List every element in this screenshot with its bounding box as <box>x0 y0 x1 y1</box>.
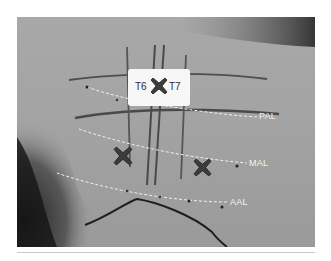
photo-graphics <box>17 17 315 247</box>
x-marker-icon <box>113 146 133 166</box>
line-label-pal: PAL <box>259 111 276 121</box>
line-label-mal: MAL <box>249 158 268 168</box>
line-label-aal: AAL <box>230 197 248 207</box>
vertebra-label-t6: T6 <box>135 81 147 92</box>
bottom-rule <box>17 252 315 253</box>
vertebra-label-t7: T7 <box>169 81 181 92</box>
x-marker-icon <box>150 77 168 95</box>
x-marker-icon <box>193 158 212 177</box>
anatomy-photo: T6 T7 PAL MAL AAL <box>17 17 315 247</box>
